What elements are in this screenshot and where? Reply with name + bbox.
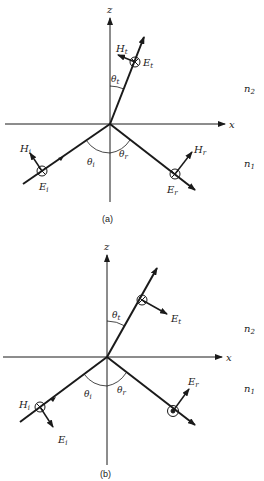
medium-upper-label: n2 [244, 83, 255, 96]
H-t-vector [118, 55, 135, 62]
theta-t-label: θt [112, 310, 120, 322]
E-r-label: Er [187, 376, 199, 389]
H-r-vector [175, 152, 192, 174]
E-r-label: Er [166, 184, 178, 197]
z-axis-label: z [103, 241, 110, 252]
x-axis-label: x [226, 352, 232, 363]
theta-i-label: θi [84, 389, 92, 401]
medium-lower-label: n1 [244, 383, 255, 396]
theta-r-label: θr [117, 385, 126, 397]
panel-b [3, 255, 222, 465]
panel-a [5, 18, 225, 202]
panel-a-labels: z x n2 n1 θi θr θt Hi Ei Hr Er Ht Et (a) [19, 4, 255, 224]
theta-t-label: θt [111, 74, 119, 86]
panel-a-caption: (a) [102, 214, 113, 224]
H-i-label: Hi [18, 399, 30, 412]
panel-b-caption: (b) [100, 469, 111, 479]
E-i-vector [40, 407, 53, 427]
H-i-label: Hi [19, 143, 31, 156]
H-t-label: Ht [115, 43, 128, 56]
theta-i-arc [84, 374, 107, 386]
incident-ray [20, 357, 107, 422]
theta-r-label: θr [119, 149, 128, 161]
medium-upper-label: n2 [244, 323, 255, 336]
E-i-into-page-icon [37, 166, 47, 176]
theta-i-arc [86, 140, 110, 153]
fresnel-diagram: z x n2 n1 θi θr θt Hi Ei Hr Er Ht Et (a) [0, 0, 264, 481]
E-t-label: Et [142, 57, 153, 70]
H-i-vector [30, 153, 42, 171]
z-axis-label: z [106, 4, 113, 15]
theta-t-arc [110, 86, 124, 89]
theta-i-label: θi [87, 157, 95, 169]
x-axis-label: x [229, 119, 235, 130]
E-r-into-page-icon [170, 169, 180, 179]
E-r-vector [173, 389, 189, 411]
theta-t-arc [107, 321, 125, 326]
E-i-label: Ei [38, 181, 49, 194]
E-i-label: Ei [57, 434, 68, 447]
incident-ray [23, 124, 110, 184]
E-t-vector [142, 300, 167, 314]
H-r-label: Hr [193, 144, 207, 157]
H-i-into-page-icon [35, 402, 45, 412]
panel-b-labels: z x n2 n1 θi θr θt Hi Ei Er Et (b) [18, 241, 255, 479]
medium-lower-label: n1 [244, 158, 255, 171]
E-t-label: Et [170, 313, 181, 326]
